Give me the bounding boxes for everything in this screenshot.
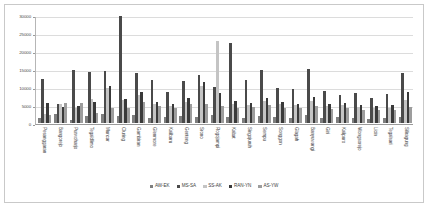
x-axis-label: Kabat — [231, 127, 236, 139]
y-axis-tick-label: 0 — [5, 123, 31, 127]
x-axis-label: Gambiran — [136, 127, 141, 146]
legend-label: RAN-YN — [234, 184, 251, 189]
bar-group — [147, 17, 163, 123]
bar-group — [272, 17, 288, 123]
y-axis-tick-label: 5000 — [5, 105, 31, 109]
bar — [127, 108, 130, 123]
bar-group — [382, 17, 398, 123]
x-axis-label: Cluring — [120, 127, 125, 141]
bar — [49, 115, 52, 123]
bar-group — [350, 17, 366, 123]
x-axis-label: Genteng — [183, 127, 188, 144]
x-axis-label-cell: Banyuwangi — [304, 126, 320, 180]
x-axis-label: Singojuruh — [246, 127, 251, 148]
x-axis-label: Giri — [325, 127, 330, 134]
bar — [331, 109, 334, 123]
bar-groups — [37, 17, 413, 123]
legend-item[interactable]: RAN-YN — [229, 184, 252, 189]
bar — [284, 108, 287, 123]
bar-group — [209, 17, 225, 123]
legend-swatch-icon — [203, 185, 207, 189]
x-axis-label-cell: Genteng — [178, 126, 194, 180]
legend-swatch-icon — [150, 185, 154, 189]
bar — [346, 108, 349, 123]
bar — [96, 113, 99, 123]
bar — [409, 107, 412, 123]
bar-group — [319, 17, 335, 123]
y-axis-tick-label: 25000 — [5, 33, 31, 37]
y-axis-tick-mark — [33, 125, 35, 126]
bar — [143, 102, 146, 123]
bar — [64, 103, 67, 123]
bar — [80, 103, 83, 123]
legend-label: AW-EK — [155, 184, 170, 189]
plot-area — [35, 17, 413, 125]
x-axis-label-cell: Kalipuro — [335, 126, 351, 180]
x-axis-label-cell: Giri — [320, 126, 336, 180]
x-axis-label-cell: Glenmore — [146, 126, 162, 180]
bar — [158, 106, 161, 123]
x-axis-label-cell: Licin — [367, 126, 383, 180]
bar — [268, 105, 271, 123]
bar-group — [131, 17, 147, 123]
legend-swatch-icon — [258, 185, 262, 189]
x-axis-label-cell: Srono — [194, 126, 210, 180]
x-axis-label-cell: Singojuruh — [241, 126, 257, 180]
x-axis-label: Tegaldlimo — [89, 127, 94, 148]
x-axis-label: Wongsorejo — [357, 127, 362, 150]
x-axis-label: Licin — [372, 127, 377, 136]
bar-group — [303, 17, 319, 123]
bar-group — [115, 17, 131, 123]
bar-group — [37, 17, 53, 123]
legend-item[interactable]: SS-AK — [203, 184, 222, 189]
x-axis-label: Sempu — [262, 127, 267, 141]
x-axis-label: Rogojampi — [215, 127, 220, 148]
x-axis-label-cell: Tegaldlimo — [83, 126, 99, 180]
y-axis-tick-label: 10000 — [5, 87, 31, 91]
bar-group — [100, 17, 116, 123]
legend-label: SS-AK — [208, 184, 222, 189]
bar-group — [162, 17, 178, 123]
bar — [237, 108, 240, 123]
legend-item[interactable]: MS-SA — [177, 184, 197, 189]
x-axis-label-cell: Sempu — [257, 126, 273, 180]
bar — [378, 110, 381, 123]
bar-group — [397, 17, 413, 123]
bar-group — [194, 17, 210, 123]
bar — [205, 104, 208, 123]
legend-swatch-icon — [177, 185, 181, 189]
x-axis-label: Tegalsari — [388, 127, 393, 145]
chart-container: 050001000015000200002500030000 Pesanggar… — [4, 4, 424, 203]
legend-label: MS-SA — [182, 184, 196, 189]
bar — [394, 110, 397, 123]
x-axis-label: Siliragung — [404, 127, 409, 147]
bar-group — [241, 17, 257, 123]
legend-item[interactable]: AS-YW — [258, 184, 278, 189]
bar-group — [335, 17, 351, 123]
x-axis-label-cell: Cluring — [115, 126, 131, 180]
plot-wrapper: 050001000015000200002500030000 — [35, 17, 413, 125]
x-axis-label-cell: Kabat — [225, 126, 241, 180]
x-axis-label-cell: Wongsorejo — [351, 126, 367, 180]
x-axis-label-cell: Songgon — [272, 126, 288, 180]
x-axis-label-cell: Gambiran — [131, 126, 147, 180]
x-axis-labels: PesanggaranBangorejoPurwoharjoTegaldlimo… — [36, 126, 414, 180]
bar-group — [68, 17, 84, 123]
x-axis-label: Muncar — [105, 127, 110, 142]
x-axis-label-cell: Siliragung — [398, 126, 414, 180]
bar — [221, 106, 224, 123]
legend-item[interactable]: AW-EK — [150, 184, 170, 189]
x-axis-label-cell: Rogojampi — [209, 126, 225, 180]
bar — [252, 107, 255, 123]
x-axis-label: Glagah — [294, 127, 299, 141]
x-axis-label-cell: Tegalsari — [383, 126, 399, 180]
x-axis-label-cell: Glagah — [288, 126, 304, 180]
bar — [111, 108, 114, 123]
bar-group — [366, 17, 382, 123]
bar — [190, 104, 193, 123]
bar — [299, 108, 302, 123]
bar-group — [178, 17, 194, 123]
bar — [315, 106, 318, 123]
x-axis-label: Pesanggaran — [42, 127, 47, 153]
bar-group — [84, 17, 100, 123]
